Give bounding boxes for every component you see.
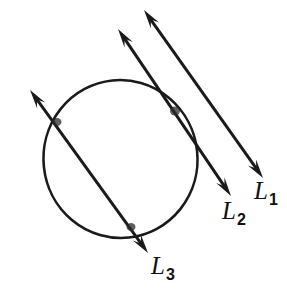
label-L3-subscript: 3 bbox=[166, 266, 175, 283]
label-L1: L1 bbox=[254, 178, 277, 203]
label-L3: L3 bbox=[151, 253, 174, 278]
line-L2-arrowhead-start bbox=[118, 29, 133, 48]
figure-canvas bbox=[0, 0, 287, 290]
secant-entry-point-marker bbox=[53, 118, 62, 126]
line-L3 bbox=[30, 90, 148, 253]
label-L1-letter: L bbox=[254, 177, 268, 204]
geometry-figure: L1 L2 L3 bbox=[0, 0, 287, 290]
label-L3-letter: L bbox=[151, 252, 165, 279]
circle bbox=[36, 72, 206, 245]
label-L2-letter: L bbox=[222, 197, 236, 224]
tangent-point-marker bbox=[170, 107, 180, 116]
label-L1-subscript: 1 bbox=[269, 191, 278, 208]
secant-exit-point-marker bbox=[127, 223, 136, 231]
line-L2-arrowhead-end bbox=[216, 177, 231, 196]
line-L3-shaft bbox=[36, 98, 142, 244]
label-L2-subscript: 2 bbox=[237, 211, 246, 228]
label-L2: L2 bbox=[222, 198, 245, 223]
